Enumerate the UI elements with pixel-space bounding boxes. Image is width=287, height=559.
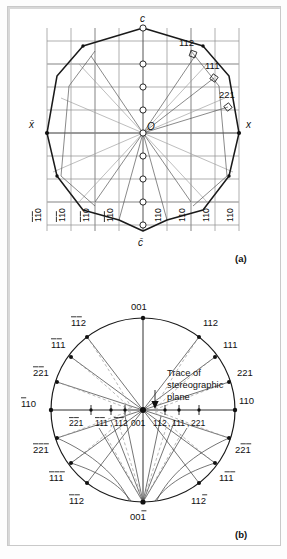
- label-origin-O: O: [147, 121, 155, 132]
- pole-label-bottom: 001: [130, 511, 146, 522]
- bottom-label-2: 110: [81, 208, 91, 222]
- equator-comma-left: ,: [110, 418, 112, 428]
- equator-label-111-right: 111: [172, 418, 185, 428]
- pole-label-left: 110: [21, 398, 36, 409]
- pole-label-ll-112-text: 112: [69, 495, 84, 506]
- pole-label-lr-112: 112: [191, 495, 207, 506]
- annotation-line-3: plane: [167, 392, 190, 402]
- pole-label-lr-112-text: 112: [191, 495, 206, 506]
- equator-label-001-center: 001: [131, 418, 146, 428]
- pole-label-left-text: 110: [21, 398, 36, 409]
- pole-label-lr-221: 221: [235, 444, 251, 455]
- inner-construction: [61, 51, 227, 206]
- pole-label-top-text: 001: [131, 301, 147, 312]
- equator-comma-right-1: ,: [168, 418, 170, 428]
- pole-label-right-text: 110: [239, 395, 254, 406]
- pole-label-top: 001: [131, 301, 147, 312]
- pole-label-ll-111: 111: [49, 472, 65, 483]
- label-axis-x-bar: x̄: [28, 119, 35, 130]
- bottom-label-6: 110: [201, 208, 211, 222]
- pole-label-ur-111: 111: [223, 339, 237, 350]
- bottom-label-0: 110: [33, 208, 43, 222]
- pole-label-ur-221-text: 221: [237, 367, 253, 378]
- pole-label-lr-111: 111: [219, 472, 235, 483]
- pole-label-bottom-text: 001: [130, 511, 146, 522]
- panel-a-tag: (a): [235, 253, 247, 264]
- pole-label-ul-111: 111: [51, 339, 65, 350]
- equator-label-112-right: 112: [153, 418, 167, 428]
- panel-a-drawing: c c̄ x x̄ O 112 111 221 110 110: [7, 6, 279, 268]
- pole-label-ll-111-text: 111: [49, 472, 63, 483]
- pole-label-ul-221-text: 221: [33, 367, 49, 378]
- pole-label-ll-112: 112: [69, 495, 84, 506]
- equator-label-221-right: 221: [191, 418, 206, 428]
- pole-label-right: 110: [239, 395, 254, 406]
- pole-label-ul-112: 112: [71, 317, 86, 328]
- equator-comma-right-2: ,: [187, 418, 189, 428]
- label-face-221: 221: [219, 89, 235, 100]
- pole-label-ul-111-text: 111: [51, 339, 65, 350]
- panel-b-tag: (b): [235, 529, 247, 540]
- pole-label-lr-221-text: 221: [235, 444, 251, 455]
- equator-label-112-bar-text: 112: [114, 418, 128, 428]
- pole-label-ll-221: 221: [33, 444, 49, 455]
- equator-label-111-bar-text: 111: [95, 418, 108, 428]
- pole-label-ur-221: 221: [237, 367, 253, 378]
- panel-b-drawing: Trace of stereographic plane 001 001 110…: [7, 268, 279, 544]
- label-axis-c-bar: c̄: [138, 237, 144, 248]
- label-axis-c: c: [140, 13, 145, 24]
- annotation-line-1: Trace of: [167, 368, 201, 378]
- equator-label-112-bar: 112: [114, 418, 128, 428]
- pole-label-ul-221: 221: [33, 367, 49, 378]
- equator-label-221-bar: 221: [69, 418, 84, 428]
- pole-label-ul-112-text: 112: [71, 317, 86, 328]
- bottom-label-4: 110: [153, 208, 163, 222]
- panel-a: c c̄ x x̄ O 112 111 221 110 110: [7, 6, 279, 268]
- pole-label-ur-112: 112: [203, 317, 218, 328]
- bottom-label-7: 110: [225, 208, 235, 222]
- label-axis-x: x: [245, 119, 252, 130]
- bottom-label-3: 110: [105, 208, 115, 222]
- bottom-label-5: 110: [177, 208, 187, 222]
- equator-label-221-bar-text: 221: [69, 418, 84, 428]
- pole-label-ur-111-text: 111: [223, 339, 237, 350]
- panel-b: Trace of stereographic plane 001 001 110…: [7, 268, 279, 544]
- bottom-index-labels: 110 110 110 110: [32, 208, 235, 222]
- annotation-line-2: stereographic: [167, 380, 224, 390]
- label-face-111: 111: [205, 60, 219, 71]
- bottom-label-1: 110: [57, 208, 67, 222]
- pole-label-ur-112-text: 112: [203, 317, 218, 328]
- pole-label-lr-111-text: 111: [219, 472, 233, 483]
- pole-label-ll-221-text: 221: [33, 444, 49, 455]
- equator-label-111-bar: 111: [95, 418, 108, 428]
- label-face-112: 112: [179, 37, 194, 48]
- figure-page: c c̄ x x̄ O 112 111 221 110 110: [0, 0, 287, 559]
